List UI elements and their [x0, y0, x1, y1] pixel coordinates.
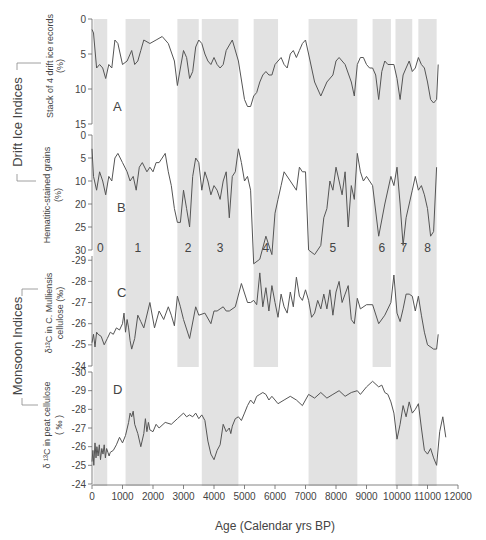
panel-label-d: D: [113, 382, 122, 397]
y-tick-label-c: -25: [72, 339, 87, 350]
x-tick-label: 10000: [383, 491, 411, 502]
ylabel-b: Hematitic-stained grains (%): [42, 146, 63, 243]
x-tick-label: 12000: [444, 491, 472, 502]
panel-label-b: B: [117, 200, 126, 215]
x-tick-label: 9000: [355, 491, 378, 502]
y-tick-label-a: 0: [80, 14, 86, 25]
x-tick-label: 8000: [325, 491, 348, 502]
x-tick-label: 3000: [172, 491, 195, 502]
ylabel-a-line2: (%): [55, 59, 65, 73]
event-number-7: 7: [401, 241, 408, 255]
x-tick-label: 6000: [264, 491, 287, 502]
y-tick-label-c: -27: [72, 297, 87, 308]
event-number-8: 8: [424, 241, 431, 255]
ylabel-b-line2: (%): [53, 188, 63, 202]
y-tick-label-b: 10: [75, 176, 87, 187]
x-tick-label: 1000: [111, 491, 134, 502]
y-tick-label-d: -28: [72, 404, 87, 415]
y-tick-label-c: -29: [72, 255, 87, 266]
x-axis-title: Age (Calendar yrs BP): [215, 519, 335, 533]
x-tick-label: 4000: [203, 491, 226, 502]
x-tick-label: 11000: [414, 491, 442, 502]
event-number-5: 5: [330, 241, 337, 255]
y-tick-label-c: -26: [72, 318, 87, 329]
y-tick-label-b: 5: [80, 153, 86, 164]
ylabel-c-line2: cellulose (‰): [55, 287, 65, 340]
x-tick-label: 0: [89, 491, 95, 502]
event-number-6: 6: [378, 241, 385, 255]
panel-label-c: C: [117, 285, 126, 300]
group-monsoon: Monsoon Indices: [10, 289, 38, 405]
y-tick-label-d: -26: [72, 441, 87, 452]
group-label-drift-ice: Drift Ice Indices: [10, 77, 25, 167]
ylabel-d: δ ¹³C in peat cellulose ( ‰ ): [42, 381, 64, 468]
event-number-1: 1: [134, 241, 141, 255]
y-tick-label-b: 0: [80, 130, 86, 141]
x-tick-label: 7000: [294, 491, 317, 502]
shaded-event-bands: 012345678: [94, 19, 437, 486]
y-tick-label-d: -25: [72, 460, 87, 471]
ylabel-a: Stack of 4 drift ice records (%): [45, 13, 65, 118]
event-number-0: 0: [97, 241, 104, 255]
y-tick-label-d: -27: [72, 423, 87, 434]
ylabel-a-line1: Stack of 4 drift ice records: [45, 13, 55, 118]
panel-label-a: A: [113, 99, 122, 114]
y-tick-label-d: -30: [72, 367, 87, 378]
x-tick-label: 5000: [233, 491, 256, 502]
event-number-2: 2: [185, 241, 192, 255]
ylabel-c-line1: δ¹³C in C. Mulliensis: [44, 272, 54, 353]
paleoclimate-chart: 012345678 0510150510202530-29-28-27-26-2…: [0, 0, 486, 540]
y-tick-label-b: 25: [75, 222, 87, 233]
event-number-3: 3: [217, 241, 224, 255]
y-tick-label-d: -29: [72, 385, 87, 396]
ylabel-d-line2: ( ‰ ): [54, 415, 64, 435]
ylabel-c: δ¹³C in C. Mulliensis cellulose (‰): [44, 272, 65, 353]
y-tick-label-c: -28: [72, 276, 87, 287]
group-label-monsoon: Monsoon Indices: [10, 296, 25, 395]
y-tick-label-a: 15: [75, 119, 87, 130]
y-tick-label-a: 10: [75, 84, 87, 95]
ylabel-d-line1: δ ¹³C in peat cellulose: [42, 381, 52, 468]
y-tick-label-a: 5: [80, 49, 86, 60]
group-drift-ice: Drift Ice Indices: [10, 63, 41, 181]
y-tick-label-d: -24: [72, 479, 87, 490]
y-tick-label-b: 20: [75, 199, 87, 210]
ylabel-b-line1: Hematitic-stained grains: [42, 146, 52, 243]
x-tick-label: 2000: [142, 491, 165, 502]
